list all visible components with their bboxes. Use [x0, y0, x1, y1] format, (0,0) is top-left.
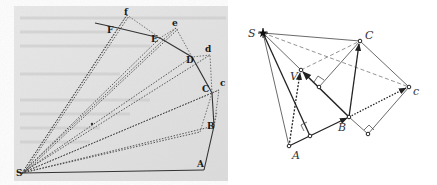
point-foot-3	[366, 132, 370, 136]
label-c: c	[220, 78, 226, 88]
label-e: e	[172, 18, 178, 28]
point-B	[347, 115, 351, 119]
points	[287, 39, 411, 148]
point-V	[299, 68, 303, 72]
label-C: C	[365, 29, 374, 42]
radius-lines	[263, 33, 310, 136]
point-foot-2	[308, 134, 312, 138]
vector-Bc-dotted	[349, 88, 406, 117]
vector-equal-area-figure: S C V c B A	[228, 0, 437, 185]
newton-orbit-figure: S A B C D E F c d e f	[0, 0, 228, 185]
label-D: D	[186, 55, 194, 65]
dot-mark	[91, 123, 93, 125]
label-S: S	[16, 168, 23, 178]
point-A	[287, 144, 291, 148]
label-B: B	[337, 121, 346, 134]
triangle-edges	[263, 33, 409, 146]
label-c: c	[413, 85, 419, 98]
vector-diagram: S C V c B A	[228, 0, 437, 185]
label-A: A	[196, 159, 205, 169]
label-S: S	[248, 27, 256, 40]
label-V: V	[290, 70, 299, 83]
label-d: d	[205, 44, 212, 54]
label-F: F	[107, 25, 114, 35]
point-foot-1	[317, 85, 321, 89]
point-C	[358, 39, 362, 43]
point-c	[407, 85, 411, 89]
label-C: C	[202, 84, 209, 94]
label-B: B	[207, 121, 215, 131]
vector-BC	[349, 44, 359, 117]
newton-orbit-diagram: S A B C D E F c d e f	[0, 0, 228, 185]
dashed-lines	[263, 33, 409, 87]
label-E: E	[151, 34, 158, 44]
label-A: A	[291, 149, 300, 162]
